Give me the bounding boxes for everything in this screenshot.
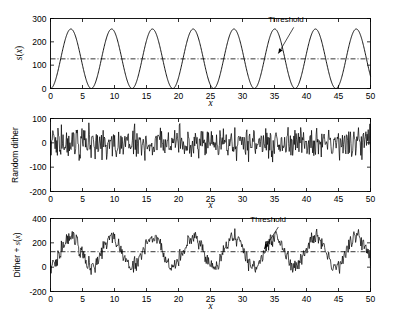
panel-sum-ylabel: Dither + s(x) — [12, 232, 22, 277]
panel-dither-ylabel: Random dither — [10, 127, 20, 183]
panel-signal-threshold-annotation-arrowhead — [278, 48, 282, 53]
panel-dither-xtick-label: 45 — [334, 194, 344, 204]
panel-signal-xtick-label: 45 — [334, 91, 344, 101]
panel-dither-axes-box — [51, 119, 371, 192]
panel-signal-xtick-label: 10 — [110, 91, 120, 101]
panel-signal-xtick-label: 5 — [80, 91, 85, 101]
panel-sum-xtick-label: 45 — [334, 294, 344, 304]
panel-signal-ytick-label: 0 — [42, 84, 47, 94]
panel-sum-xlabel: x — [207, 301, 213, 311]
panel-dither-xtick-label: 15 — [142, 194, 152, 204]
panel-dither-svg: 05101520253035404550-200-1000100Random d… — [0, 105, 395, 210]
panel-signal-xtick-label: 40 — [302, 91, 312, 101]
panel-signal-ylabel: s(x) — [14, 46, 25, 60]
panel-signal-ytick-label: 100 — [32, 60, 46, 70]
panel-signal: 051015202530354045500100200300s(x)xThres… — [0, 0, 395, 108]
panel-dither-xtick-label: 0 — [48, 194, 53, 204]
figure-canvas: 051015202530354045500100200300s(x)xThres… — [0, 0, 395, 318]
panel-dither-xtick-label: 10 — [110, 194, 120, 204]
panel-signal-threshold-annotation-label: Threshold — [268, 15, 304, 24]
panel-sum-axes-box — [51, 219, 371, 292]
panel-sum-xtick-label: 20 — [174, 294, 184, 304]
panel-sum-ytick-label: 0 — [42, 262, 47, 272]
panel-signal-ytick-label: 200 — [32, 37, 46, 47]
panel-sum-ytick-label: 200 — [32, 238, 46, 248]
panel-signal-xtick-label: 20 — [174, 91, 184, 101]
panel-dither-plotarea: 05101520253035404550-200-1000100Random d… — [10, 114, 375, 211]
panel-signal-svg: 051015202530354045500100200300s(x)xThres… — [0, 0, 395, 108]
panel-dither-xtick-label: 5 — [80, 194, 85, 204]
panel-dither-ytick-label: -100 — [29, 162, 46, 172]
panel-dither-ytick-label: -200 — [29, 187, 46, 197]
panel-signal-xtick-label: 50 — [366, 91, 376, 101]
panel-signal-plotarea: 051015202530354045500100200300s(x)xThres… — [14, 14, 375, 109]
panel-sum-ytick-label: -200 — [29, 287, 46, 297]
panel-dither-xtick-label: 40 — [302, 194, 312, 204]
panel-sum-threshold-annotation-label: Threshold — [250, 215, 286, 224]
panel-dither-ytick-label: 100 — [32, 114, 46, 124]
panel-dither-xtick-label: 20 — [174, 194, 184, 204]
panel-dither-xtick-label: 35 — [270, 194, 280, 204]
panel-signal-ytick-label: 300 — [32, 14, 46, 24]
panel-sum-xtick-label: 50 — [366, 294, 376, 304]
panel-sum-xtick-label: 40 — [302, 294, 312, 304]
panel-dither-xtick-label: 30 — [238, 194, 248, 204]
panel-signal-axes-box — [51, 19, 371, 89]
panel-sum-svg: 05101520253035404550-2000200400Dither + … — [0, 208, 395, 318]
panel-dither: 05101520253035404550-200-1000100Random d… — [0, 105, 395, 210]
panel-dither-xtick-label: 50 — [366, 194, 376, 204]
panel-sum-plotarea: 05101520253035404550-2000200400Dither + … — [12, 214, 375, 312]
panel-sum-xtick-label: 30 — [238, 294, 248, 304]
panel-sum-ytick-label: 400 — [32, 214, 46, 224]
panel-dither-ytick-label: 0 — [42, 138, 47, 148]
panel-signal-xtick-label: 30 — [238, 91, 248, 101]
panel-signal-xtick-label: 15 — [142, 91, 152, 101]
panel-sum-xtick-label: 15 — [142, 294, 152, 304]
panel-sum-xtick-label: 0 — [48, 294, 53, 304]
panel-sum-xtick-label: 5 — [80, 294, 85, 304]
panel-sum: 05101520253035404550-2000200400Dither + … — [0, 208, 395, 318]
panel-signal-xtick-label: 0 — [48, 91, 53, 101]
panel-sum-xtick-label: 35 — [270, 294, 280, 304]
panel-dither-series-line — [51, 123, 371, 162]
panel-signal-xtick-label: 35 — [270, 91, 280, 101]
panel-sum-xtick-label: 10 — [110, 294, 120, 304]
